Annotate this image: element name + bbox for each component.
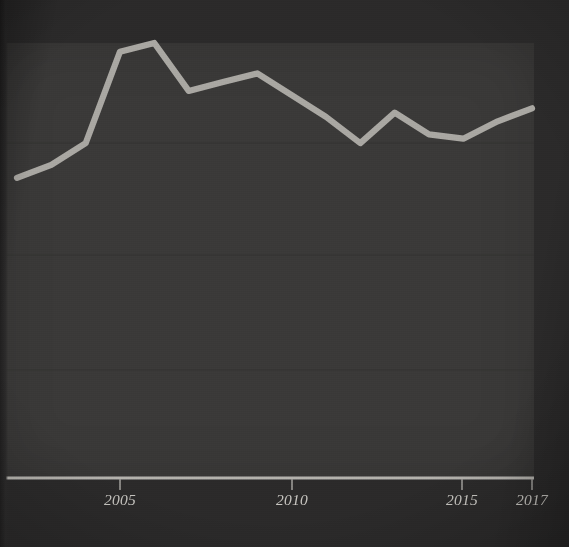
x-axis-ticks bbox=[120, 479, 532, 490]
x-tick-label-2017: 2017 bbox=[516, 491, 549, 508]
chart-screenshot: 2005 2010 2015 2017 bbox=[0, 0, 569, 547]
data-series-line bbox=[17, 43, 532, 178]
x-tick-label-2015: 2015 bbox=[446, 491, 478, 508]
line-chart: 2005 2010 2015 2017 bbox=[0, 0, 569, 547]
x-tick-label-2010: 2010 bbox=[276, 491, 308, 508]
gridlines bbox=[0, 143, 534, 370]
x-tick-label-2005: 2005 bbox=[104, 491, 136, 508]
x-axis-tick-labels: 2005 2010 2015 2017 bbox=[104, 491, 549, 508]
